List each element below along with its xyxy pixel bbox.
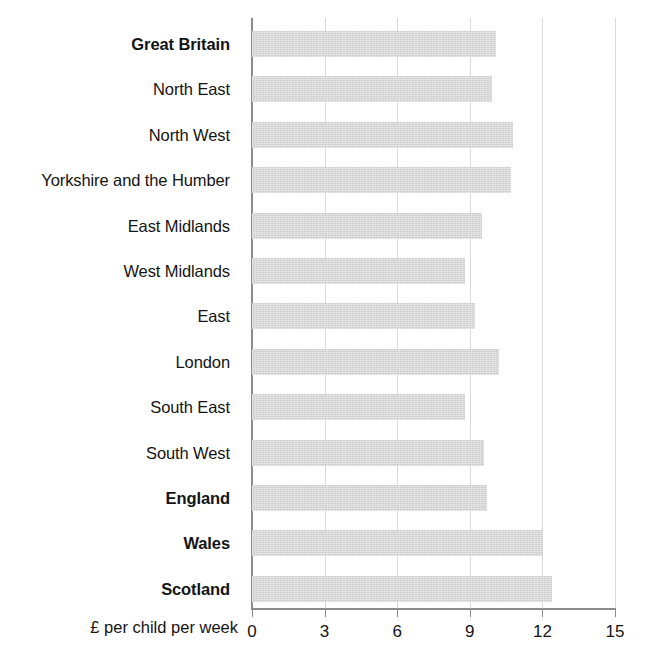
bar bbox=[252, 485, 487, 511]
category-label: Wales bbox=[0, 535, 230, 552]
x-tick-0 bbox=[252, 608, 253, 617]
category-label: Great Britain bbox=[0, 36, 230, 53]
bar bbox=[252, 394, 465, 420]
x-tick-label-15: 15 bbox=[595, 622, 635, 641]
x-tick-label-6: 6 bbox=[377, 622, 417, 641]
category-label: North West bbox=[0, 127, 230, 144]
x-tick-label-12: 12 bbox=[522, 622, 562, 641]
bar bbox=[252, 576, 552, 602]
category-label: London bbox=[0, 354, 230, 371]
category-label: East Midlands bbox=[0, 218, 230, 235]
x-tick-9 bbox=[470, 608, 471, 617]
x-tick-label-9: 9 bbox=[450, 622, 490, 641]
x-tick-label-3: 3 bbox=[305, 622, 345, 641]
x-axis-title: £ per child per week bbox=[0, 618, 238, 637]
bar bbox=[252, 530, 542, 556]
bar bbox=[252, 122, 513, 148]
category-label: East bbox=[0, 308, 230, 325]
bar bbox=[252, 303, 475, 329]
category-label-column: Great BritainNorth EastNorth WestYorkshi… bbox=[0, 0, 240, 652]
x-tick-label-0: 0 bbox=[232, 622, 272, 641]
category-label: South West bbox=[0, 445, 230, 462]
category-label: South East bbox=[0, 399, 230, 416]
plot-area: 03691215 bbox=[252, 18, 615, 608]
bar-chart: Great BritainNorth EastNorth WestYorkshi… bbox=[0, 0, 647, 652]
x-tick-15 bbox=[615, 608, 616, 617]
gridline-15 bbox=[615, 18, 616, 608]
x-tick-6 bbox=[397, 608, 398, 617]
x-axis-line bbox=[251, 608, 616, 610]
category-label: Scotland bbox=[0, 581, 230, 598]
x-tick-3 bbox=[325, 608, 326, 617]
bar bbox=[252, 76, 492, 102]
category-label: North East bbox=[0, 81, 230, 98]
bar bbox=[252, 31, 496, 57]
bar bbox=[252, 167, 511, 193]
x-tick-12 bbox=[542, 608, 543, 617]
bar bbox=[252, 440, 484, 466]
category-label: Yorkshire and the Humber bbox=[0, 172, 230, 189]
category-label: England bbox=[0, 490, 230, 507]
category-label: West Midlands bbox=[0, 263, 230, 280]
gridline-12 bbox=[542, 18, 543, 608]
bar bbox=[252, 258, 465, 284]
bar bbox=[252, 349, 499, 375]
bar bbox=[252, 213, 482, 239]
